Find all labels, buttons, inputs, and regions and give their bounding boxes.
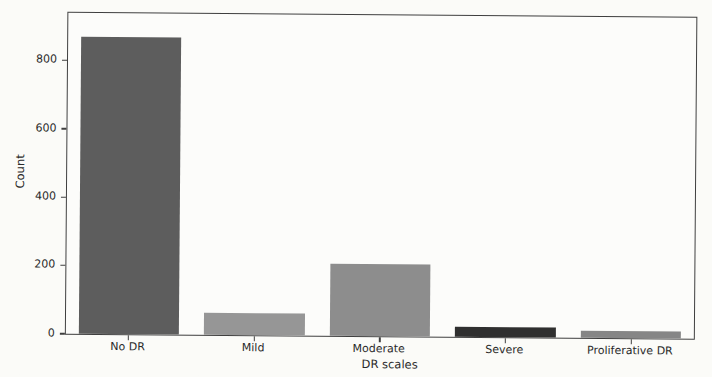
bar-mild	[204, 313, 305, 336]
y-tick-label-600: 600	[16, 122, 56, 133]
x-tick-labels-group: No DRMildModerateSevereProliferative DR	[1, 0, 712, 3]
x-tick-label-severe: Severe	[439, 344, 569, 357]
ticks-group	[68, 13, 696, 18]
y-tick-label-0: 0	[15, 327, 55, 338]
bars-group	[68, 13, 696, 18]
y-axis-label: Count	[13, 154, 27, 188]
y-tick-mark-400	[61, 196, 66, 197]
x-tick-label-proliferative-dr: Proliferative DR	[565, 345, 695, 358]
bar-no-dr	[78, 37, 181, 335]
y-tick-label-400: 400	[16, 190, 56, 201]
x-tick-label-mild: Mild	[188, 342, 318, 355]
y-tick-labels-group: 0200400600800	[1, 0, 712, 3]
y-tick-mark-600	[61, 128, 66, 129]
y-tick-mark-800	[62, 60, 67, 61]
bar-proliferative-dr	[581, 331, 682, 339]
x-axis-label: DR scales	[0, 354, 711, 374]
y-tick-mark-200	[60, 265, 65, 266]
bar-chart-figure: 0200400600800 No DRMildModerateSeverePro…	[0, 0, 712, 377]
x-tick-label-moderate: Moderate	[314, 343, 444, 356]
x-tick-label-no-dr: No DR	[62, 341, 192, 354]
bar-severe	[455, 327, 556, 338]
y-tick-mark-0	[60, 333, 65, 334]
y-tick-label-800: 800	[17, 54, 57, 65]
bar-moderate	[330, 264, 431, 336]
y-tick-label-200: 200	[15, 259, 55, 270]
plot-area	[65, 12, 698, 340]
